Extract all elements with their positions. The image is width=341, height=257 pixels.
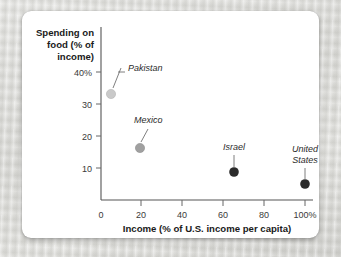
y-axis-title-line-2: food (% of: [47, 39, 95, 50]
y-axis-ticks: [96, 72, 101, 168]
chart-svg: Spending on food (% of income) 40% 30 20…: [22, 11, 319, 238]
data-point-mexico[interactable]: [135, 143, 144, 152]
x-tick-label-60: 60: [218, 210, 228, 220]
y-tick-label-40: 40%: [74, 68, 92, 78]
x-axis-title: Income (% of U.S. income per capita): [123, 223, 291, 234]
data-label-united-states-line-1: United: [292, 144, 319, 154]
chart-card: Spending on food (% of income) 40% 30 20…: [22, 11, 319, 238]
x-tick-label-100: 100%: [293, 210, 316, 220]
data-point-united-states[interactable]: [300, 179, 310, 189]
y-axis-title-line-1: Spending on: [36, 27, 94, 38]
leader-line-mexico: [141, 129, 148, 142]
data-label-united-states-line-2: States: [292, 155, 318, 165]
y-tick-label-20: 20: [82, 132, 92, 142]
scatter-plot: Spending on food (% of income) 40% 30 20…: [22, 11, 319, 238]
data-label-pakistan: Pakistan: [128, 63, 163, 73]
data-point-pakistan[interactable]: [106, 89, 115, 98]
x-tick-label-0: 0: [98, 210, 103, 220]
x-tick-label-80: 80: [259, 210, 269, 220]
y-tick-label-30: 30: [82, 100, 92, 110]
data-label-israel: Israel: [223, 142, 246, 152]
data-point-israel[interactable]: [229, 167, 239, 177]
y-tick-label-10: 10: [82, 164, 92, 174]
x-tick-label-20: 20: [136, 210, 146, 220]
data-label-mexico: Mexico: [134, 115, 163, 125]
leader-line-pakistan: [113, 68, 121, 88]
x-axis-ticks: [141, 200, 305, 206]
y-axis-title-line-3: income): [57, 51, 94, 62]
x-tick-label-40: 40: [177, 210, 187, 220]
